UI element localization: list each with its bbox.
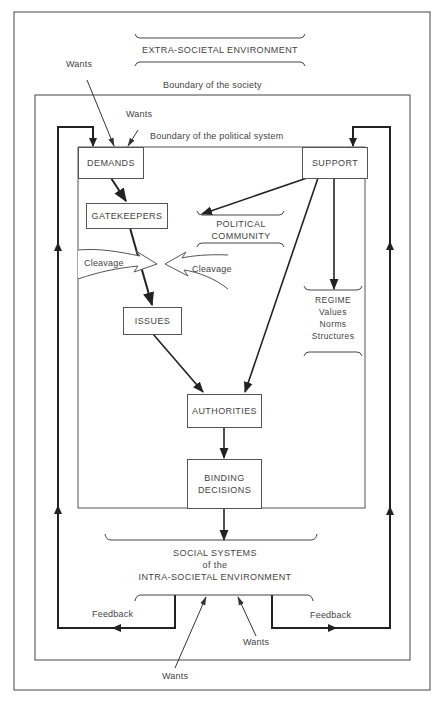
wants-label-top-outer: Wants: [66, 59, 92, 69]
regime-label: REGIME Values Norms Structures: [300, 294, 366, 342]
extra-societal-title: EXTRA-SOCIETAL ENVIRONMENT: [135, 44, 305, 56]
authorities-node: AUTHORITIES: [187, 394, 262, 428]
wants-outer-arrow: [87, 80, 114, 146]
wants-inner-arrow: [128, 130, 138, 146]
cleavage-left-label: Cleavage: [84, 258, 124, 268]
binding-decisions-line2: DECISIONS: [198, 484, 251, 496]
gatekeepers-node: GATEKEEPERS: [86, 203, 168, 229]
wants-label-bottom-inner: Wants: [243, 637, 269, 647]
extra-societal-boundary: [14, 12, 430, 690]
issues-node: ISSUES: [123, 307, 182, 335]
wants-bottom-inner-arrow: [238, 597, 256, 636]
demands-node: DEMANDS: [78, 147, 144, 179]
wants-label-top-inner: Wants: [126, 109, 152, 119]
cleavage-right-label: Cleavage: [192, 264, 232, 274]
title-brace-bottom: [135, 62, 305, 66]
wants-label-bottom-outer: Wants: [162, 671, 188, 681]
political-system-boundary-label: Boundary of the political system: [150, 131, 283, 141]
political-community-label: POLITICAL COMMUNITY: [197, 218, 285, 242]
binding-decisions-node: BINDING DECISIONS: [187, 459, 262, 509]
title-brace-top: [135, 34, 305, 38]
binding-decisions-line1: BINDING: [204, 472, 244, 484]
intra-societal-label: SOCIAL SYSTEMS of the INTRA-SOCIETAL ENV…: [95, 547, 335, 583]
diagram-canvas: [0, 0, 440, 703]
wants-bottom-outer-arrow: [175, 597, 206, 668]
feedback-right-label: Feedback: [310, 610, 351, 620]
society-boundary-label: Boundary of the society: [163, 80, 262, 90]
support-node: SUPPORT: [302, 147, 368, 179]
feedback-left-label: Feedback: [92, 609, 133, 619]
